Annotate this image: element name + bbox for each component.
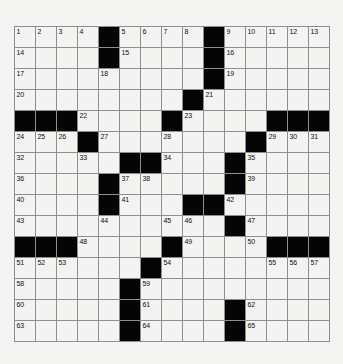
grid-cell[interactable] — [225, 90, 246, 111]
grid-cell[interactable]: 6 — [141, 27, 162, 48]
grid-cell[interactable] — [120, 132, 141, 153]
grid-cell[interactable] — [225, 258, 246, 279]
grid-cell[interactable] — [309, 300, 330, 321]
grid-cell[interactable]: 41 — [120, 195, 141, 216]
grid-cell[interactable] — [309, 321, 330, 342]
grid-cell[interactable]: 26 — [57, 132, 78, 153]
grid-cell[interactable]: 15 — [120, 48, 141, 69]
grid-cell[interactable] — [141, 195, 162, 216]
grid-cell[interactable] — [267, 174, 288, 195]
grid-cell[interactable]: 63 — [15, 321, 36, 342]
grid-cell[interactable] — [183, 153, 204, 174]
grid-cell[interactable]: 12 — [288, 27, 309, 48]
grid-cell[interactable] — [288, 174, 309, 195]
grid-cell[interactable] — [141, 90, 162, 111]
grid-cell[interactable] — [225, 279, 246, 300]
grid-cell[interactable] — [309, 195, 330, 216]
grid-cell[interactable] — [204, 300, 225, 321]
grid-cell[interactable] — [78, 195, 99, 216]
grid-cell[interactable] — [78, 300, 99, 321]
grid-cell[interactable]: 36 — [15, 174, 36, 195]
grid-cell[interactable]: 19 — [225, 69, 246, 90]
grid-cell[interactable] — [267, 279, 288, 300]
grid-cell[interactable]: 17 — [15, 69, 36, 90]
grid-cell[interactable] — [78, 48, 99, 69]
grid-cell[interactable] — [36, 69, 57, 90]
grid-cell[interactable]: 60 — [15, 300, 36, 321]
grid-cell[interactable] — [288, 279, 309, 300]
grid-cell[interactable] — [120, 90, 141, 111]
grid-cell[interactable]: 58 — [15, 279, 36, 300]
grid-cell[interactable] — [204, 153, 225, 174]
grid-cell[interactable] — [183, 174, 204, 195]
grid-cell[interactable] — [204, 111, 225, 132]
grid-cell[interactable]: 48 — [78, 237, 99, 258]
grid-cell[interactable] — [99, 90, 120, 111]
grid-cell[interactable]: 29 — [267, 132, 288, 153]
grid-cell[interactable]: 43 — [15, 216, 36, 237]
grid-cell[interactable] — [141, 69, 162, 90]
grid-cell[interactable] — [141, 132, 162, 153]
grid-cell[interactable] — [204, 237, 225, 258]
grid-cell[interactable] — [309, 90, 330, 111]
grid-cell[interactable] — [57, 279, 78, 300]
grid-cell[interactable]: 21 — [204, 90, 225, 111]
grid-cell[interactable] — [309, 279, 330, 300]
grid-cell[interactable] — [309, 48, 330, 69]
grid-cell[interactable]: 54 — [162, 258, 183, 279]
grid-cell[interactable]: 64 — [141, 321, 162, 342]
grid-cell[interactable] — [267, 195, 288, 216]
grid-cell[interactable] — [57, 90, 78, 111]
grid-cell[interactable] — [120, 258, 141, 279]
grid-cell[interactable] — [141, 111, 162, 132]
grid-cell[interactable] — [57, 300, 78, 321]
grid-cell[interactable]: 31 — [309, 132, 330, 153]
grid-cell[interactable] — [288, 300, 309, 321]
grid-cell[interactable]: 44 — [99, 216, 120, 237]
grid-cell[interactable] — [162, 300, 183, 321]
grid-cell[interactable]: 52 — [36, 258, 57, 279]
grid-cell[interactable] — [36, 48, 57, 69]
grid-cell[interactable] — [36, 195, 57, 216]
grid-cell[interactable] — [225, 237, 246, 258]
grid-cell[interactable] — [162, 174, 183, 195]
grid-cell[interactable]: 33 — [78, 153, 99, 174]
crossword-grid[interactable]: 1234567891011121314151617181920212223242… — [14, 26, 330, 342]
grid-cell[interactable] — [36, 321, 57, 342]
grid-cell[interactable] — [183, 132, 204, 153]
grid-cell[interactable]: 14 — [15, 48, 36, 69]
grid-cell[interactable] — [204, 321, 225, 342]
grid-cell[interactable]: 13 — [309, 27, 330, 48]
grid-cell[interactable] — [246, 279, 267, 300]
grid-cell[interactable] — [120, 237, 141, 258]
grid-cell[interactable]: 25 — [36, 132, 57, 153]
grid-cell[interactable]: 3 — [57, 27, 78, 48]
grid-cell[interactable] — [78, 279, 99, 300]
grid-cell[interactable] — [141, 237, 162, 258]
grid-cell[interactable] — [267, 69, 288, 90]
grid-cell[interactable] — [141, 216, 162, 237]
grid-cell[interactable] — [288, 153, 309, 174]
grid-cell[interactable] — [99, 279, 120, 300]
grid-cell[interactable] — [267, 321, 288, 342]
grid-cell[interactable] — [246, 48, 267, 69]
grid-cell[interactable]: 62 — [246, 300, 267, 321]
grid-cell[interactable]: 56 — [288, 258, 309, 279]
grid-cell[interactable] — [36, 300, 57, 321]
grid-cell[interactable] — [288, 48, 309, 69]
grid-cell[interactable]: 65 — [246, 321, 267, 342]
grid-cell[interactable] — [36, 279, 57, 300]
grid-cell[interactable] — [120, 216, 141, 237]
grid-cell[interactable]: 50 — [246, 237, 267, 258]
grid-cell[interactable] — [99, 111, 120, 132]
grid-cell[interactable] — [57, 69, 78, 90]
grid-cell[interactable] — [78, 321, 99, 342]
grid-cell[interactable]: 2 — [36, 27, 57, 48]
grid-cell[interactable] — [204, 132, 225, 153]
grid-cell[interactable]: 9 — [225, 27, 246, 48]
grid-cell[interactable]: 11 — [267, 27, 288, 48]
grid-cell[interactable] — [78, 216, 99, 237]
grid-cell[interactable]: 35 — [246, 153, 267, 174]
grid-cell[interactable]: 57 — [309, 258, 330, 279]
grid-cell[interactable]: 16 — [225, 48, 246, 69]
